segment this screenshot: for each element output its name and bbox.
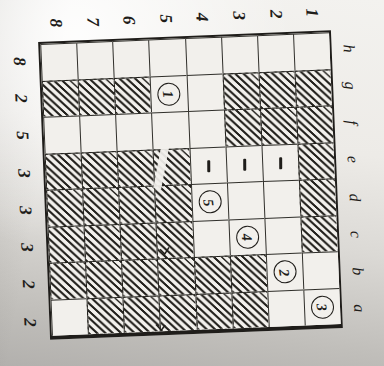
square-g4: [186, 73, 224, 111]
square-c8: [48, 225, 86, 263]
square-f3: [224, 108, 262, 146]
count-label: 3: [17, 243, 35, 252]
top-rank-label: 6: [120, 16, 138, 25]
square-d2: [263, 180, 301, 218]
square-f2: [260, 107, 298, 145]
count-label-slot: 5: [8, 117, 35, 155]
square-d3: [227, 181, 265, 219]
square-h7: [76, 41, 114, 79]
square-d6: [118, 185, 156, 223]
square-a7: [87, 296, 125, 334]
count-label-slot: 3: [11, 191, 38, 229]
file-letter-label-slot: h: [336, 29, 361, 67]
circled-number: 4: [235, 225, 259, 249]
square-b2: 2: [266, 253, 304, 291]
top-rank-label: 5: [157, 14, 175, 23]
square-d4: 5: [190, 183, 228, 221]
square-a3: [231, 291, 269, 329]
left-labels: 82533322: [5, 42, 43, 341]
circled-number: 3: [310, 295, 334, 319]
top-rank-label: 3: [230, 11, 248, 20]
count-label: 3: [14, 168, 32, 177]
square-g3: [222, 72, 260, 110]
square-b3: [229, 254, 267, 292]
file-letter-label-slot: c: [343, 215, 368, 253]
file-letter-label-slot: d: [342, 178, 367, 216]
top-rank-label-slot: 2: [256, 1, 294, 28]
square-f1: [296, 105, 334, 143]
square-c3: 4: [228, 218, 266, 256]
file-letter-label-slot: b: [345, 252, 370, 290]
square-b4: [193, 255, 231, 293]
square-c6: [120, 222, 158, 260]
chessboard-grid: 15423: [38, 30, 343, 340]
square-c7: [84, 223, 122, 261]
square-e3: [225, 145, 263, 183]
dash-mark: [243, 158, 246, 170]
top-rank-label-slot: 8: [37, 10, 75, 37]
square-f4: [188, 110, 226, 148]
file-letter-label: g: [342, 81, 358, 90]
square-g6: [114, 76, 152, 114]
top-rank-label: 8: [47, 19, 65, 28]
file-letter-label-slot: f: [339, 104, 364, 142]
pen-mark-artifact: [158, 242, 170, 252]
square-e8: [45, 152, 83, 190]
top-rank-label: 1: [303, 8, 321, 17]
puzzle-figure: 87654321 82533322 hgfedcba 15423: [0, 0, 384, 366]
count-label: 2: [20, 317, 38, 326]
file-letter-label: c: [348, 230, 364, 238]
square-g2: [258, 70, 296, 108]
pen-mark-artifact: [154, 318, 166, 328]
square-a2: [267, 289, 305, 327]
circled-number-text: 3: [314, 303, 329, 312]
circled-number-text: 5: [201, 198, 216, 207]
top-rank-label-slot: 7: [73, 8, 111, 35]
count-label: 8: [10, 57, 28, 66]
top-rank-label: 4: [193, 13, 211, 22]
file-letter-label-slot: a: [346, 290, 371, 328]
file-letter-label-slot: g: [337, 66, 362, 104]
dash-mark: [207, 160, 210, 172]
file-letter-label: f: [344, 120, 360, 125]
top-rank-label-slot: 4: [183, 4, 221, 31]
square-e6: [117, 149, 155, 187]
circled-number-text: 1: [161, 90, 176, 99]
count-label-slot: 3: [13, 228, 40, 266]
file-letter-label: a: [351, 304, 367, 313]
square-a8: [50, 298, 88, 336]
square-e7: [81, 150, 119, 188]
top-rank-label-slot: 6: [110, 7, 148, 34]
square-c1: [300, 215, 338, 253]
count-label-slot: 2: [16, 303, 43, 341]
count-label: 2: [11, 94, 29, 103]
file-letter-label: h: [340, 44, 356, 53]
square-b5: [157, 257, 195, 295]
square-d8: [46, 188, 84, 226]
top-rank-label: 7: [83, 17, 101, 26]
square-e1: [297, 142, 335, 180]
square-d1: [299, 178, 337, 216]
file-letter-label: e: [345, 156, 361, 164]
square-g5: 1: [150, 75, 188, 113]
square-e2: [261, 143, 299, 181]
square-d5: [154, 184, 192, 222]
square-g8: [42, 79, 80, 117]
square-h5: [149, 38, 187, 76]
square-c2: [264, 216, 302, 254]
circled-number: 1: [157, 82, 181, 106]
square-f8: [43, 115, 81, 153]
square-h1: [293, 32, 331, 70]
square-f7: [79, 114, 117, 152]
right-labels: hgfedcba: [336, 29, 372, 328]
circled-number: 5: [198, 190, 222, 214]
count-label-slot: 3: [10, 154, 37, 192]
count-label: 5: [13, 131, 31, 140]
file-letter-label-slot: e: [340, 141, 365, 179]
square-g7: [78, 77, 116, 115]
square-e4: [189, 146, 227, 184]
square-h8: [40, 42, 78, 80]
square-b8: [49, 261, 87, 299]
count-label: 3: [16, 206, 34, 215]
top-rank-label: 2: [266, 10, 284, 19]
